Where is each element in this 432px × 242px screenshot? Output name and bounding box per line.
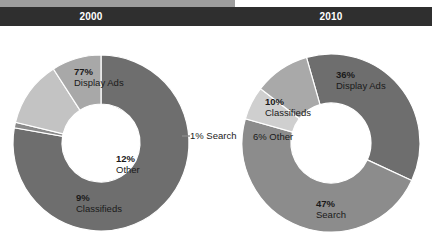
top-accent-strip: [0, 0, 235, 7]
name-display-ads-2010: Display Ads: [336, 80, 386, 91]
label-classifieds-2010: 10% Classifieds: [265, 96, 311, 118]
name-search-2010: Search: [316, 209, 346, 220]
label-display-ads-2010: 36% Display Ads: [336, 69, 386, 91]
name-classifieds-2010: Classifieds: [265, 107, 311, 118]
year-header-bar: 2000 2010: [0, 7, 432, 26]
donut-chart-2010: [0, 26, 432, 242]
charts-area: 77% Display Ads 1% Search 12% Other 9% C…: [0, 26, 432, 242]
year-label-left: 2000: [75, 10, 107, 23]
label-search-2010: 47% Search: [316, 198, 346, 220]
year-label-right: 2010: [315, 10, 347, 23]
value-display-ads-2010: 36%: [336, 69, 355, 80]
value-name-other-2010: 6% Other: [253, 131, 293, 142]
figure-root: 2000 2010 77% Display Ads 1% Search 12% …: [0, 0, 432, 242]
value-search-2010: 47%: [316, 198, 335, 209]
label-other-2010: 6% Other: [253, 131, 293, 142]
value-classifieds-2010: 10%: [265, 96, 284, 107]
